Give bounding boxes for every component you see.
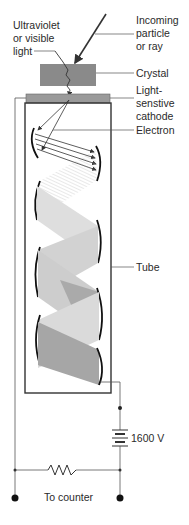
battery (112, 430, 128, 446)
label-counter: To counter (44, 491, 94, 503)
scintillation-diagram: Incoming particle or ray Ultraviolet or … (0, 0, 189, 525)
terminal-left (12, 495, 19, 502)
svg-text:Ultraviolet: Ultraviolet (13, 19, 60, 31)
crystal (40, 64, 96, 86)
label-cathode: Light- senstive cathode (136, 84, 175, 122)
terminal-right (117, 495, 124, 502)
label-incoming: Incoming particle or ray (136, 14, 179, 52)
label-crystal: Crystal (136, 67, 169, 79)
svg-text:Incoming: Incoming (136, 14, 179, 26)
svg-text:particle: particle (136, 27, 170, 39)
incoming-ray (75, 14, 106, 63)
dynode (32, 128, 38, 158)
label-tube: Tube (136, 261, 160, 273)
svg-text:or visible: or visible (13, 32, 55, 44)
svg-text:senstive: senstive (136, 97, 175, 109)
label-electron: Electron (136, 124, 175, 136)
resistor (48, 465, 76, 475)
svg-text:or ray: or ray (136, 40, 164, 52)
label-voltage: 1600 V (131, 432, 164, 444)
svg-text:cathode: cathode (136, 110, 174, 122)
svg-text:light: light (13, 45, 32, 57)
svg-text:Light-: Light- (136, 84, 163, 96)
